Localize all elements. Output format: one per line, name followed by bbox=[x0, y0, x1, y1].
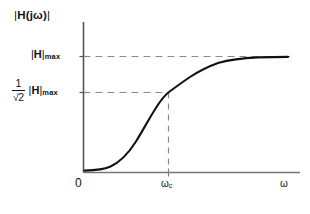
hcut-subscript: max bbox=[42, 88, 58, 97]
hmax-tick-label: |H|max bbox=[31, 49, 60, 61]
y-axis-title-text: H(jω) bbox=[17, 9, 47, 21]
omega-c-label: ωc bbox=[161, 179, 172, 189]
hmax-subscript: max bbox=[45, 52, 61, 61]
y-axis-title: |H(jω)| bbox=[14, 10, 50, 22]
hmax-symbol: H bbox=[34, 48, 42, 60]
origin-label: 0 bbox=[75, 177, 82, 189]
magnitude-response-curve bbox=[85, 57, 289, 171]
fraction-denominator: √2 bbox=[12, 90, 25, 103]
one-over-root-two-fraction: 1 √2 bbox=[12, 78, 25, 102]
fraction-numerator: 1 bbox=[13, 78, 23, 90]
hcut-magnitude-group: |H|max bbox=[29, 85, 58, 97]
omega-c-symbol: ω bbox=[161, 178, 169, 189]
hcut-tick-label: 1 √2 |H|max bbox=[12, 79, 58, 103]
omega-axis-label: ω bbox=[280, 179, 288, 189]
omega-c-subscript: c bbox=[169, 182, 173, 189]
plot-canvas bbox=[0, 0, 310, 214]
filter-response-figure: |H(jω)| |H|max 1 √2 |H|max 0 ωc ω bbox=[0, 0, 310, 214]
